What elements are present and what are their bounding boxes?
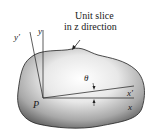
theta-label: θ <box>84 73 89 83</box>
body-shape <box>18 48 145 128</box>
y-label: y <box>37 26 42 36</box>
point-p-label: P <box>32 99 39 110</box>
x-label: x <box>127 102 132 112</box>
caption-line-1: Unit slice <box>75 10 114 21</box>
stress-element-diagram: Unit slice in z direction y′ y P θ x′ x <box>0 0 149 139</box>
y-prime-label: y′ <box>13 32 21 42</box>
x-prime-label: x′ <box>126 88 134 98</box>
caption-line-2: in z direction <box>64 21 117 32</box>
